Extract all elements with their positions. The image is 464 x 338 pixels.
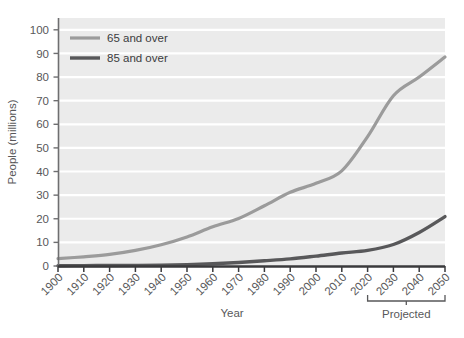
y-axis-tick-label: 40 (36, 166, 49, 178)
y-axis-tick-label: 10 (36, 236, 49, 248)
x-axis-tick-label: 2020 (348, 271, 375, 298)
x-axis-tick-label: 2000 (296, 271, 323, 298)
projected-bracket: Projected (368, 295, 445, 320)
x-axis-tick-label: 1950 (167, 271, 194, 298)
projected-label: Projected (382, 308, 431, 320)
y-axis-title-group: People (millions) (6, 99, 18, 184)
x-axis-tick-label: 1970 (219, 271, 246, 298)
x-axis-title-group: Year (220, 307, 243, 319)
y-axis-tick-label: 0 (43, 260, 49, 272)
x-axis-tick-label: 1900 (38, 271, 65, 298)
x-axis-tick-label: 1960 (193, 271, 220, 298)
y-axis-tick-label: 50 (36, 142, 49, 154)
legend-label: 65 and over (107, 32, 168, 44)
x-axis-tick-label: 1980 (245, 271, 272, 298)
x-axis-tick-label: 1930 (116, 271, 143, 298)
y-axis-tick-label: 80 (36, 71, 49, 83)
chart-container: 0102030405060708090100 19001910192019301… (0, 0, 464, 338)
legend-label: 85 and over (107, 52, 168, 64)
x-axis-tick-label: 1920 (90, 271, 117, 298)
y-axis-title: People (millions) (6, 99, 18, 184)
line-chart: 0102030405060708090100 19001910192019301… (0, 0, 464, 338)
y-axis-tick-label: 30 (36, 189, 49, 201)
y-axis-tick-label: 60 (36, 118, 49, 130)
x-axis-tick-label: 1990 (271, 271, 298, 298)
y-axis-labels-group: 0102030405060708090100 (30, 24, 49, 272)
x-axis-tick-label: 1910 (64, 271, 91, 298)
y-axis-tick-label: 100 (30, 24, 49, 36)
x-axis-tick-label: 2010 (322, 271, 349, 298)
x-axis-tick-label: 2030 (374, 271, 401, 298)
x-axis-tick-label: 2050 (425, 271, 452, 298)
x-axis-tick-label: 2040 (400, 271, 427, 298)
y-axis-ticks-group (54, 30, 59, 266)
y-axis-tick-label: 20 (36, 213, 49, 225)
y-axis-tick-label: 70 (36, 95, 49, 107)
x-axis-tick-label: 1940 (142, 271, 169, 298)
x-axis-labels-group: 1900191019201930194019501960197019801990… (38, 271, 452, 298)
x-axis-title: Year (220, 307, 243, 319)
y-axis-tick-label: 90 (36, 48, 49, 60)
